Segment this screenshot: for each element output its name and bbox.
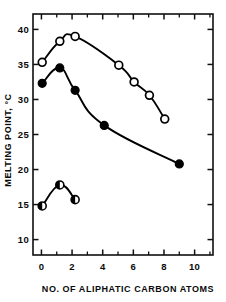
data-point: [161, 115, 169, 123]
data-point: [56, 64, 64, 72]
plot-frame: [33, 14, 213, 255]
series-line-filled-circles: [42, 68, 179, 164]
data-point: [38, 58, 46, 66]
series-line-open-circles: [42, 34, 165, 119]
melting-point-chart: 101520253035400246810 NO. OF ALIPHATIC C…: [0, 0, 226, 302]
y-tick-label: 25: [18, 129, 30, 140]
data-point: [56, 37, 64, 45]
plot-box: [33, 14, 213, 255]
x-tick-label: 10: [189, 261, 200, 272]
figure-container: 101520253035400246810 NO. OF ALIPHATIC C…: [0, 0, 226, 302]
x-tick-label: 2: [69, 261, 75, 272]
y-axis-title: MELTING POINT, °C: [3, 93, 13, 186]
data-point: [100, 121, 108, 129]
x-tick-label: 0: [39, 261, 45, 272]
data-point: [146, 91, 154, 99]
y-tick-label: 10: [18, 234, 29, 245]
data-series: [38, 33, 183, 210]
x-tick-label: 4: [100, 261, 106, 272]
x-tick-label: 6: [131, 261, 137, 272]
data-point: [130, 78, 138, 86]
x-tick-label: 8: [161, 261, 167, 272]
y-tick-label: 35: [18, 59, 30, 70]
y-tick-label: 20: [18, 164, 29, 175]
data-point: [115, 61, 123, 69]
data-point: [71, 86, 79, 94]
y-tick-label: 40: [18, 24, 29, 35]
data-point: [71, 33, 79, 41]
axis-ticks: [33, 14, 213, 255]
series-open-circles: [38, 33, 168, 123]
series-half-filled-circles: [38, 181, 79, 210]
y-tick-label: 30: [18, 94, 29, 105]
y-tick-label: 15: [18, 199, 30, 210]
data-point: [175, 160, 183, 168]
x-axis-title: NO. OF ALIPHATIC CARBON ATOMS: [42, 284, 214, 294]
data-point: [38, 79, 46, 87]
